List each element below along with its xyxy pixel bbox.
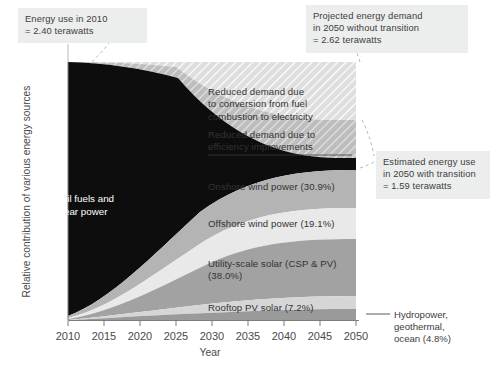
x-axis-title: Year xyxy=(0,347,420,358)
x-tick-label-2015: 2015 xyxy=(84,330,124,342)
x-tick-label-2020: 2020 xyxy=(120,330,160,342)
x-tick-label-2035: 2035 xyxy=(228,330,268,342)
band-label-onshore-wind: Onshore wind power (30.9%) xyxy=(208,181,368,193)
band-label-hydro-geothermal-ocean: Hydropower, geothermal, ocean (4.8%) xyxy=(394,309,480,344)
band-label-utility-solar: Utility-scale solar (CSP & PV) (38.0%) xyxy=(208,258,358,283)
band-label-conversion: Reduced demand due to conversion from fu… xyxy=(208,86,358,123)
x-tick-label-2010: 2010 xyxy=(48,330,88,342)
x-axis-ticks xyxy=(68,321,356,327)
x-tick-label-2050: 2050 xyxy=(336,330,376,342)
x-tick-label-2040: 2040 xyxy=(264,330,304,342)
callout-estimated-use-2050: Estimated energy use in 2050 with transi… xyxy=(376,151,490,199)
band-label-rooftop-solar: Rooftop PV solar (7.2%) xyxy=(208,302,368,314)
callout-energy-use-2010: Energy use in 2010 = 2.40 terawatts xyxy=(18,8,147,43)
band-label-fossil-nuclear: Fossil fuels and nuclear power xyxy=(46,193,166,218)
y-axis-title: Relative contribution of various energy … xyxy=(21,62,32,322)
x-tick-label-2025: 2025 xyxy=(156,330,196,342)
callout-projected-demand-2050: Projected energy demand in 2050 without … xyxy=(306,5,468,53)
band-label-efficiency: Reduced demand due to efficiency improve… xyxy=(208,129,358,154)
band-label-offshore-wind: Offshore wind power (19.1%) xyxy=(208,218,368,230)
x-tick-label-2045: 2045 xyxy=(300,330,340,342)
x-tick-label-2030: 2030 xyxy=(192,330,232,342)
